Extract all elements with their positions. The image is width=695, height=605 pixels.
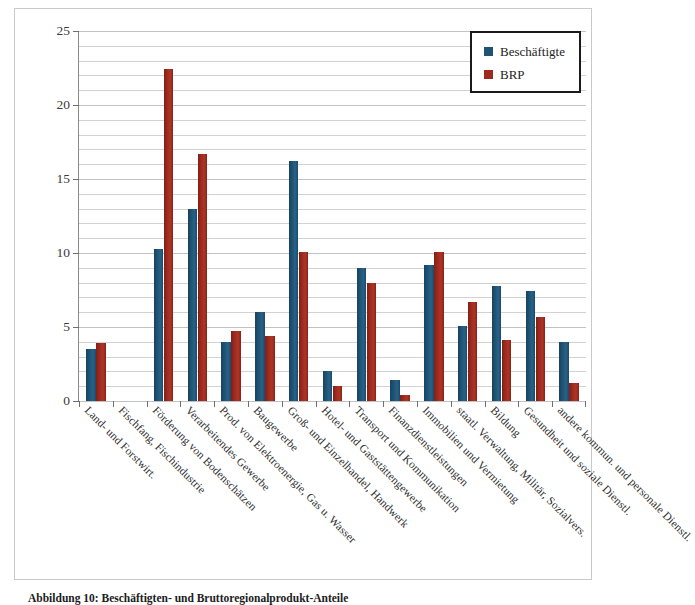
- chart-legend: Beschäftigte BRP: [470, 31, 581, 93]
- bar-brp[interactable]: [198, 154, 208, 401]
- bar-beschaeftigte[interactable]: [323, 371, 333, 401]
- y-axis-tick-mark: [73, 327, 79, 328]
- y-axis-tick-label: 0: [63, 393, 70, 409]
- figure-frame: 0510152025 Beschäftigte BRP Land- und Fo…: [14, 8, 592, 580]
- bar-brp[interactable]: [569, 383, 579, 401]
- gridline-minor: [79, 194, 586, 195]
- gridline-major: [79, 401, 586, 402]
- bar-brp[interactable]: [96, 343, 106, 401]
- bar-brp[interactable]: [536, 317, 546, 401]
- gridline-minor: [79, 238, 586, 239]
- bar-beschaeftigte[interactable]: [559, 342, 569, 401]
- bar-beschaeftigte[interactable]: [492, 286, 502, 401]
- bar-beschaeftigte[interactable]: [221, 342, 231, 401]
- y-axis-tick-mark: [73, 31, 79, 32]
- y-axis-tick-label: 25: [57, 23, 71, 39]
- legend-item-brp[interactable]: BRP: [484, 63, 579, 86]
- gridline-minor: [79, 135, 586, 136]
- y-axis-tick-mark: [73, 105, 79, 106]
- legend-swatch-blue-icon: [484, 47, 493, 56]
- legend-label-brp: BRP: [500, 67, 525, 83]
- legend-swatch-red-icon: [484, 70, 493, 79]
- gridline-minor: [79, 164, 586, 165]
- bar-beschaeftigte[interactable]: [526, 291, 536, 401]
- y-axis-tick-label: 5: [63, 319, 70, 335]
- bar-beschaeftigte[interactable]: [458, 326, 468, 401]
- x-axis-labels: Land- und Forstwirt.Fischfang, Fischindu…: [78, 404, 586, 584]
- y-axis-tick-mark: [73, 253, 79, 254]
- bar-brp[interactable]: [434, 252, 444, 401]
- y-axis-tick-label: 15: [57, 171, 71, 187]
- bar-beschaeftigte[interactable]: [390, 380, 400, 401]
- bar-beschaeftigte[interactable]: [357, 268, 367, 401]
- bar-brp[interactable]: [367, 283, 377, 401]
- bar-brp[interactable]: [164, 69, 174, 401]
- bar-brp[interactable]: [400, 395, 410, 401]
- x-axis-category-label: Groß- und Einzelhandel, Handwerk: [285, 404, 411, 530]
- bar-brp[interactable]: [502, 340, 512, 401]
- bar-brp[interactable]: [231, 331, 241, 401]
- bar-beschaeftigte[interactable]: [154, 249, 164, 401]
- figure-caption: Abbildung 10: Beschäftigten- und Bruttor…: [28, 592, 588, 605]
- y-axis-tick-label: 20: [57, 97, 71, 113]
- gridline-minor: [79, 120, 586, 121]
- y-axis-tick-label: 10: [57, 245, 71, 261]
- bar-beschaeftigte[interactable]: [86, 349, 96, 401]
- legend-item-beschaeftigte[interactable]: Beschäftigte: [484, 40, 579, 63]
- bar-brp[interactable]: [468, 302, 478, 401]
- bar-beschaeftigte[interactable]: [255, 312, 265, 401]
- gridline-minor: [79, 223, 586, 224]
- legend-label-beschaeftigte: Beschäftigte: [500, 44, 565, 60]
- y-axis-tick-mark: [73, 179, 79, 180]
- bar-beschaeftigte[interactable]: [188, 209, 198, 401]
- bar-brp[interactable]: [265, 336, 275, 401]
- gridline-major: [79, 179, 586, 180]
- bar-beschaeftigte[interactable]: [289, 161, 299, 401]
- gridline-major: [79, 105, 586, 106]
- bar-brp[interactable]: [333, 386, 343, 401]
- bar-beschaeftigte[interactable]: [424, 265, 434, 401]
- gridline-minor: [79, 209, 586, 210]
- gridline-minor: [79, 149, 586, 150]
- bar-brp[interactable]: [299, 252, 309, 401]
